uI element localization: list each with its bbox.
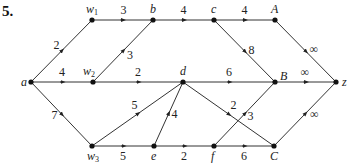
edge-b-c: 4: [153, 3, 214, 20]
node-dot: [151, 143, 156, 148]
edge-w3-e: 5: [92, 146, 154, 163]
arrow-icon: [243, 113, 245, 115]
node-dot: [28, 79, 33, 84]
edge-weight: 2: [231, 98, 237, 112]
node-dot: [90, 79, 95, 84]
arrow-icon: [168, 113, 169, 116]
edge-weight: ∞: [310, 107, 319, 121]
edge-d-C: 2: [183, 82, 274, 146]
arrow-icon: [122, 50, 124, 52]
node-z: z: [333, 75, 347, 89]
edge-weight: 6: [241, 149, 247, 163]
edge-weight: 4: [172, 107, 178, 121]
arrow-icon: [60, 113, 62, 115]
edge-weight: ∞: [310, 42, 319, 56]
edge-C-z: ∞: [274, 82, 336, 146]
edge-w2-b: 3: [93, 20, 153, 82]
edge-weight: 3: [127, 48, 133, 62]
node-e: e: [151, 143, 157, 163]
node-dot: [333, 79, 338, 84]
node-label: C: [270, 149, 279, 163]
arrow-icon: [60, 50, 62, 52]
node-dot: [89, 17, 94, 22]
edge-w3-d: 5: [92, 82, 183, 146]
node-b: b: [150, 2, 156, 23]
arrow-icon: [304, 113, 306, 115]
edge-weight: 4: [59, 65, 65, 79]
edge-weight: 4: [242, 3, 248, 17]
edge-f-C: 6: [214, 146, 274, 163]
edge-w1-b: 3: [92, 3, 153, 20]
arrow-icon: [243, 50, 245, 52]
node-a: a: [21, 75, 34, 89]
edge-weight: 5: [132, 98, 138, 112]
node-f: f: [211, 143, 217, 163]
node-dot: [89, 143, 94, 148]
node-dot: [150, 17, 155, 22]
edge-weight: 3: [248, 109, 254, 123]
edge-weight: 5: [120, 149, 126, 163]
edge-c-B: 8: [214, 20, 275, 82]
arrow-icon: [136, 113, 138, 115]
node-dot: [272, 17, 277, 22]
node-dot: [180, 79, 185, 84]
nodes-layer: aw1bcAw2dBzw3efC: [21, 2, 347, 164]
edge-weight: 2: [181, 149, 187, 163]
edge-a-w3: 7: [31, 82, 92, 146]
node-label: d: [180, 64, 187, 78]
edge-weight: ∞: [301, 65, 310, 79]
node-B: B: [272, 69, 288, 85]
node-label: w2: [83, 64, 95, 79]
edge-weight: 4: [181, 3, 187, 17]
node-label: z: [341, 75, 347, 89]
edge-weight: 8: [249, 43, 255, 57]
node-label: w3: [87, 149, 99, 164]
node-label: w1: [86, 2, 98, 17]
node-dot: [211, 17, 216, 22]
edge-f-B: 3: [214, 82, 275, 146]
weighted-directed-graph: 2344∞3426∞875542623∞ aw1bcAw2dBzw3efC: [0, 0, 348, 164]
node-label: b: [150, 2, 156, 16]
arrow-icon: [227, 113, 229, 115]
node-c: c: [211, 2, 217, 23]
arrow-icon: [304, 50, 306, 52]
node-label: A: [270, 2, 279, 16]
edge-weight: 2: [54, 38, 60, 52]
node-label: e: [151, 149, 157, 163]
edge-e-f: 2: [154, 146, 214, 163]
node-dot: [272, 79, 277, 84]
edge-weight: 6: [226, 65, 232, 79]
node-label: a: [21, 75, 27, 89]
edge-c-A: 4: [214, 3, 275, 20]
node-dot: [271, 143, 276, 148]
node-label: B: [280, 69, 288, 83]
node-label: c: [211, 2, 217, 16]
edge-weight: 2: [135, 65, 141, 79]
node-dot: [211, 143, 216, 148]
edge-weight: 3: [121, 3, 127, 17]
edge-weight: 7: [52, 108, 58, 122]
node-label: f: [211, 149, 216, 163]
